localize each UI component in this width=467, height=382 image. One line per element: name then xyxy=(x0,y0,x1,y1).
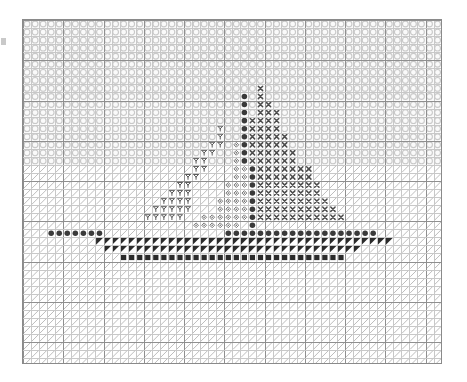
pattern-grid-canvas xyxy=(23,20,441,363)
cross-stitch-chart xyxy=(22,19,442,364)
page-edge-artifact xyxy=(1,38,6,45)
pattern-chart-page xyxy=(0,0,467,382)
